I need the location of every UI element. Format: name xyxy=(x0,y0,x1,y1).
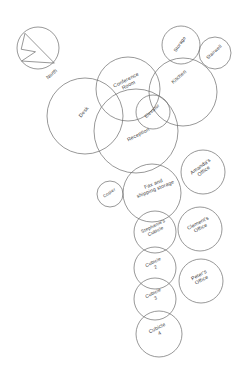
bubble-label-stairwell: Stairwell xyxy=(205,44,223,60)
bubble-label-reception: Reception xyxy=(126,126,150,142)
bubble-circle-desk xyxy=(47,78,123,154)
compass-rose-icon: North xyxy=(17,27,59,80)
compass-needle xyxy=(21,33,54,63)
bubbles-layer: ConferenceRoomStorageStairwellKitchenDes… xyxy=(47,26,231,357)
bubble-label-peters-office: Peter'sOffice xyxy=(190,268,210,286)
bubble-label-desk: Desk xyxy=(77,105,90,118)
floor-plan-diagram: ConferenceRoomStorageStairwellKitchenDes… xyxy=(0,0,244,373)
bubble-label-kitchen: Kitchen xyxy=(170,68,187,85)
bubble-label-elevator: Elevator xyxy=(143,103,160,119)
bubble-label-cubicle-3: Cubicle3 xyxy=(145,287,165,304)
bubble-label-amandas-office: Amanda'sOffice xyxy=(189,157,215,180)
bubble-label-cubicle-2: Cubicle2 xyxy=(145,256,165,273)
bubble-label-cubicle-4: Cubicle4 xyxy=(147,321,168,339)
compass-north-label: North xyxy=(45,67,58,80)
bubble-diagram-canvas: ConferenceRoomStorageStairwellKitchenDes… xyxy=(0,0,244,373)
bubble-label-clements-office: Clement'sOffice xyxy=(186,214,213,236)
bubble-label-fax-and-shipping-storage: Fax andshipping storage xyxy=(134,173,175,199)
bubble-label-storage: Storage xyxy=(173,35,187,52)
bubble-desk[interactable] xyxy=(47,78,123,154)
bubble-label-copier: Copier xyxy=(102,187,117,199)
